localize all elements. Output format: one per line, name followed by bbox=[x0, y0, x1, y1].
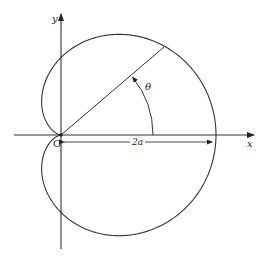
diagram-svg bbox=[0, 0, 264, 259]
origin-point bbox=[59, 133, 63, 137]
x-axis-label: x bbox=[247, 139, 253, 149]
origin-label: O bbox=[53, 139, 61, 149]
span-label: 2a bbox=[130, 138, 145, 147]
angle-label: θ bbox=[145, 82, 151, 92]
cardioid-diagram: y x O θ 2a bbox=[0, 0, 264, 259]
y-axis-label: y bbox=[52, 14, 58, 24]
